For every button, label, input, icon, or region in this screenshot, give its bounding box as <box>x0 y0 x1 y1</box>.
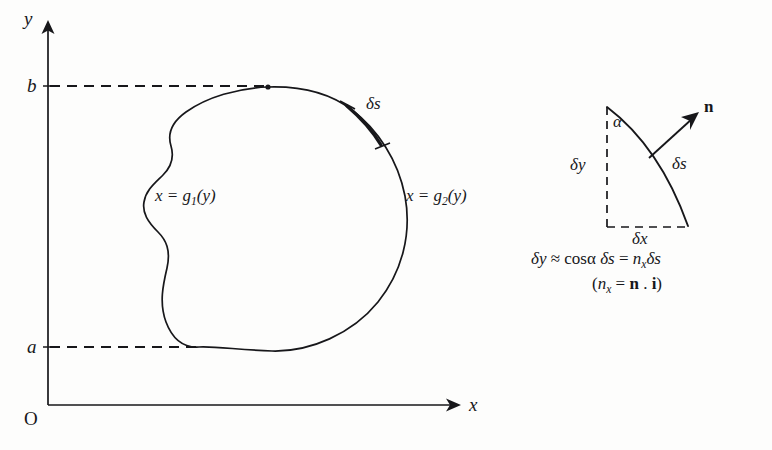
equation-ds-term-2: δs <box>646 249 661 268</box>
inset-normal-label: n <box>704 98 713 115</box>
arc-element-label-text: δs <box>366 94 381 113</box>
inset-alpha-text: α <box>613 112 622 131</box>
inset-delta-y-text: δy <box>570 155 585 174</box>
figure-canvas: y x O b a x = g1(y) x = g2(y) δs δy δx δ… <box>0 0 772 450</box>
right-boundary-label-suffix: (y) <box>448 186 467 205</box>
equation-cos-term: cosα <box>564 249 596 268</box>
inset-normal-text: n <box>704 97 713 116</box>
equation-equals-sign: = <box>619 249 629 268</box>
left-boundary-label-prefix: x = g <box>155 186 191 205</box>
origin-label: O <box>24 409 38 428</box>
right-boundary-label: x = g2(y) <box>406 187 467 208</box>
note-n-subscript: x <box>606 283 611 296</box>
note-close-paren: ) <box>656 274 662 293</box>
arc-element-label: δs <box>366 95 381 112</box>
y-tick-label-a: a <box>27 337 37 356</box>
equation-approx-sign: ≈ <box>551 249 560 268</box>
diagram-graphics <box>0 0 772 450</box>
y-axis-label: y <box>24 9 32 28</box>
inset-delta-s-text: δs <box>672 154 687 173</box>
x-axis-label: x <box>469 395 477 414</box>
axis-group <box>42 20 462 412</box>
region-boundary <box>144 84 408 351</box>
arc-element-tick-end <box>375 143 390 149</box>
note-n-symbol: n <box>598 274 607 293</box>
note-equals-sign: = <box>616 274 626 293</box>
left-boundary-label-suffix: (y) <box>197 186 216 205</box>
inset-delta-s-label: δs <box>672 155 687 172</box>
equation-lhs: δy <box>531 249 546 268</box>
inset-normal-vector-shaft <box>649 118 693 158</box>
note-dot: . <box>643 274 647 293</box>
y-tick-label-b: b <box>27 76 37 95</box>
left-boundary-label: x = g1(y) <box>155 187 216 208</box>
inset-note: (nx = n . i) <box>592 275 662 296</box>
dashed-guides <box>50 86 268 347</box>
tangency-point-b <box>265 84 270 89</box>
inset-delta-y-label: δy <box>570 156 585 173</box>
note-vector-n: n <box>629 274 638 293</box>
inset-equation: δy ≈ cosα δs = nxδs <box>531 250 661 271</box>
inset-delta-x-text: δx <box>632 229 647 248</box>
inset-alpha-label: α <box>613 113 622 130</box>
right-boundary-label-prefix: x = g <box>406 186 442 205</box>
equation-ds-term: δs <box>600 249 615 268</box>
equation-n-symbol: n <box>633 249 642 268</box>
inset-delta-x-label: δx <box>632 230 647 247</box>
